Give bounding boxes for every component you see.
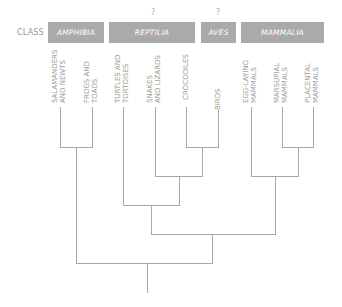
- branch-amniotes: [152, 235, 276, 264]
- branch-reptiles: [124, 107, 180, 235]
- branch-mammals: [252, 107, 299, 235]
- phylogenetic-tree: [0, 0, 342, 307]
- branch-archosaurs: [187, 107, 219, 177]
- branch-root: [77, 264, 213, 294]
- branch-diapsids: [156, 107, 203, 206]
- branch-amphibia: [61, 107, 93, 264]
- branch-therians: [283, 107, 314, 177]
